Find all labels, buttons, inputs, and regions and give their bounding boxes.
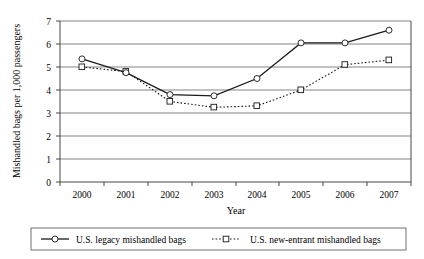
x-tick-label: 2000 bbox=[73, 190, 92, 200]
x-tick-label: 2001 bbox=[117, 190, 136, 200]
legend-label-legacy: U.S. legacy mishandled bags bbox=[76, 235, 186, 245]
x-tick-label: 2003 bbox=[205, 190, 224, 200]
y-tick-label: 1 bbox=[46, 155, 51, 165]
x-tick-label: 2004 bbox=[248, 190, 267, 200]
y-tick-label: 0 bbox=[46, 178, 51, 188]
data-point-marker bbox=[123, 70, 129, 76]
data-point-marker bbox=[254, 103, 260, 109]
y-tick-labels: 7 6 5 4 3 2 1 0 bbox=[46, 17, 51, 188]
legend-label-new-entrant: U.S. new-entrant mishandled bags bbox=[250, 235, 381, 245]
y-tick-label: 5 bbox=[46, 63, 51, 73]
x-tick-label: 2005 bbox=[292, 190, 311, 200]
y-tick-label: 3 bbox=[46, 109, 51, 119]
x-tick-labels: 2000 2001 2002 2003 2004 2005 2006 2007 bbox=[73, 190, 399, 200]
chart-figure: 7 6 5 4 3 2 1 0 2000 2001 2002 2003 2004… bbox=[0, 0, 424, 259]
x-tick-label: 2002 bbox=[161, 190, 180, 200]
y-tick-label: 6 bbox=[46, 40, 51, 50]
data-point-marker bbox=[79, 64, 85, 70]
data-point-marker bbox=[79, 56, 85, 62]
data-point-marker bbox=[298, 40, 304, 46]
y-axis-title: Mishandled bags per 1,000 passengers bbox=[11, 24, 22, 178]
data-point-marker bbox=[342, 40, 348, 46]
y-tick-label: 2 bbox=[46, 132, 51, 142]
legend-marker-circle-icon bbox=[52, 236, 58, 242]
data-point-marker bbox=[211, 104, 217, 110]
data-point-marker bbox=[254, 76, 260, 82]
x-tick-marks bbox=[60, 182, 411, 186]
data-point-marker bbox=[167, 99, 173, 105]
y-tick-label: 7 bbox=[46, 17, 51, 27]
x-axis-title: Year bbox=[227, 205, 246, 216]
legend-marker-square-icon bbox=[223, 236, 229, 242]
plot-background bbox=[60, 21, 411, 182]
data-point-marker bbox=[211, 93, 217, 99]
data-point-marker bbox=[342, 62, 348, 68]
data-point-marker bbox=[386, 57, 392, 63]
x-tick-label: 2006 bbox=[336, 190, 355, 200]
x-tick-label: 2007 bbox=[380, 190, 399, 200]
data-point-marker bbox=[298, 87, 304, 93]
chart-svg: 7 6 5 4 3 2 1 0 2000 2001 2002 2003 2004… bbox=[0, 0, 424, 259]
data-point-marker bbox=[167, 92, 173, 98]
data-point-marker bbox=[386, 27, 392, 33]
chart-legend: U.S. legacy mishandled bags U.S. new-ent… bbox=[31, 228, 406, 250]
y-tick-marks bbox=[56, 21, 60, 182]
y-tick-label: 4 bbox=[46, 86, 51, 96]
